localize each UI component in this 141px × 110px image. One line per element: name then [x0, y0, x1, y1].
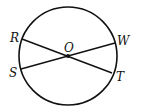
label-s: S — [9, 66, 17, 80]
label-o: O — [64, 41, 74, 55]
diagram-canvas: R W S T O — [0, 0, 141, 110]
label-t: T — [116, 70, 125, 84]
label-r: R — [9, 31, 19, 45]
label-w: W — [117, 34, 131, 48]
circle-diagram: R W S T O — [0, 0, 141, 110]
